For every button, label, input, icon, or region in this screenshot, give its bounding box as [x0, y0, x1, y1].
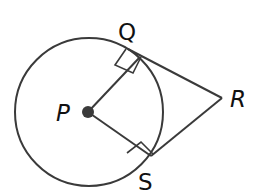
tangent-qr	[128, 49, 222, 98]
label-r: R	[230, 86, 246, 112]
label-q: Q	[118, 19, 136, 45]
tangent-diagram: Q P R S	[0, 0, 257, 195]
center-point-p	[82, 106, 94, 118]
radius-ps	[88, 112, 151, 156]
label-p: P	[56, 100, 70, 126]
label-s: S	[138, 169, 153, 195]
